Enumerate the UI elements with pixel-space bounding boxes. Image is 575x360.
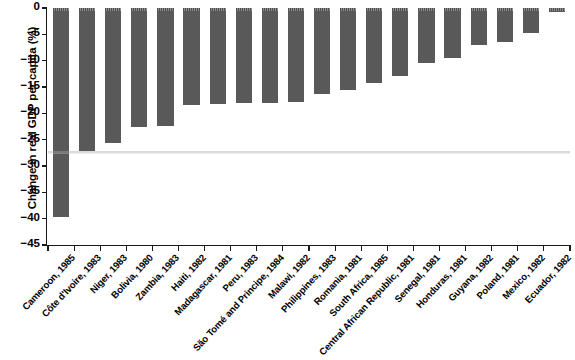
x-tick-mark <box>152 245 153 251</box>
x-tick-mark <box>230 245 231 251</box>
x-tick-mark <box>100 245 101 251</box>
bar <box>340 8 356 90</box>
x-tick-mark <box>387 245 388 251</box>
bar <box>288 8 304 102</box>
y-tick-mark <box>42 218 47 219</box>
bar <box>131 8 147 127</box>
bar <box>366 8 382 83</box>
bar <box>210 8 226 104</box>
bar <box>471 8 487 45</box>
y-tick-mark <box>42 60 47 61</box>
x-tick-mark <box>47 245 48 251</box>
y-tick-mark <box>42 139 47 140</box>
y-tick-label: −45 <box>20 237 40 249</box>
y-tick-mark <box>42 244 47 245</box>
x-tick-mark <box>543 245 544 251</box>
y-tick-mark <box>42 192 47 193</box>
y-tick-mark <box>42 86 47 87</box>
bar <box>79 8 95 151</box>
y-tick-label: −5 <box>27 26 40 38</box>
y-tick-mark <box>42 34 47 35</box>
bar <box>418 8 434 63</box>
x-tick-mark <box>256 245 257 251</box>
y-tick-mark <box>42 113 47 114</box>
y-tick-label: −35 <box>20 184 40 196</box>
y-tick-label: −30 <box>20 158 40 170</box>
x-tick-mark <box>413 245 414 251</box>
y-axis-line <box>46 7 47 246</box>
bar <box>497 8 513 42</box>
bar <box>549 8 565 12</box>
x-tick-mark <box>335 245 336 251</box>
y-tick-label: −15 <box>20 79 40 91</box>
y-tick-label: −20 <box>20 105 40 117</box>
x-tick-mark <box>361 245 362 251</box>
bar <box>236 8 252 103</box>
x-tick-mark <box>282 245 283 251</box>
gdp-change-bar-chart: Change in real GDP per capita (%) 0−5−10… <box>0 0 575 360</box>
x-tick-mark <box>308 245 309 251</box>
x-tick-mark <box>517 245 518 251</box>
bar <box>314 8 330 94</box>
bar <box>262 8 278 103</box>
bar <box>53 8 69 217</box>
bar <box>157 8 173 126</box>
y-tick-mark <box>42 7 47 8</box>
y-tick-label: 0 <box>34 0 40 12</box>
x-tick-mark <box>126 245 127 251</box>
x-tick-mark <box>491 245 492 251</box>
bar <box>183 8 199 105</box>
scan-artifact-line-secondary <box>48 153 570 154</box>
x-tick-mark <box>569 245 570 251</box>
bar <box>105 8 121 143</box>
bar <box>392 8 408 76</box>
y-tick-label: −10 <box>20 53 40 65</box>
x-tick-mark <box>178 245 179 251</box>
x-tick-mark <box>204 245 205 251</box>
x-tick-mark <box>465 245 466 251</box>
bar <box>444 8 460 58</box>
y-tick-label: −25 <box>20 132 40 144</box>
x-tick-mark <box>439 245 440 251</box>
y-tick-label: −40 <box>20 211 40 223</box>
y-tick-mark <box>42 165 47 166</box>
x-tick-mark <box>74 245 75 251</box>
bar <box>523 8 539 33</box>
